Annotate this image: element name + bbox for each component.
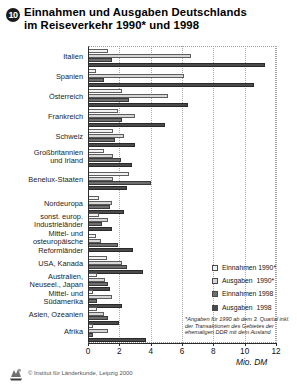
- bar: [88, 181, 151, 185]
- bar: [88, 295, 112, 299]
- category-label: sonst. europ.Industrieländer: [0, 213, 83, 230]
- bar: [88, 78, 104, 82]
- bar: [88, 273, 97, 277]
- x-axis-tick-label: 4: [141, 347, 161, 356]
- bar: [88, 201, 112, 205]
- bar: [88, 83, 254, 87]
- bar: [88, 186, 127, 190]
- chart-footnote: *Angaben für 1990 ab dem 3. Quartal inkl…: [185, 316, 295, 336]
- bar: [88, 333, 93, 337]
- bar: [88, 74, 184, 78]
- legend-swatch: [212, 278, 218, 284]
- category-label: Asien, Ozeanien: [0, 311, 83, 319]
- category-label: Österreich: [0, 93, 83, 101]
- category-label-line: Südamerika: [0, 298, 83, 306]
- bar: [88, 177, 113, 181]
- x-axis-tick-label: 12: [266, 347, 286, 356]
- bar: [88, 278, 105, 282]
- gridline: [213, 46, 214, 343]
- bar: [88, 123, 165, 127]
- x-axis-tick: [213, 343, 214, 346]
- bar: [88, 118, 122, 122]
- category-label-line: Spanien: [0, 73, 83, 81]
- bar: [88, 109, 118, 113]
- category-label: Mittel- undSüdamerika: [0, 290, 83, 307]
- bar: [88, 143, 135, 147]
- bar: [88, 227, 112, 231]
- category-label: Schweiz: [0, 133, 83, 141]
- bar: [88, 205, 110, 209]
- bar: [88, 256, 107, 260]
- category-label-line: Afrika: [0, 328, 83, 336]
- x-axis-tick: [88, 343, 89, 346]
- x-axis-tick: [276, 343, 277, 346]
- bar: [88, 58, 112, 62]
- bar: [88, 94, 168, 98]
- page-title: Einnahmen und Ausgaben Deutschlands im R…: [24, 6, 289, 32]
- category-label-line: und Irland: [0, 157, 83, 165]
- credit-text: © Institut für Länderkunde, Leipzig 2000: [28, 370, 133, 376]
- x-axis-tick-label: 8: [203, 347, 223, 356]
- bar: [88, 321, 119, 325]
- bar: [88, 307, 97, 311]
- legend-swatch: [212, 305, 218, 311]
- category-label-line: Österreich: [0, 93, 83, 101]
- legend-swatch: [212, 291, 218, 297]
- bar: [88, 316, 108, 320]
- chart-header: 10 Einnahmen und Ausgaben Deutschlands i…: [0, 6, 297, 40]
- x-axis-tick-label: 0: [78, 347, 98, 356]
- category-label-line: Benelux-Staaten: [0, 176, 83, 184]
- institut-fuer-laenderkunde-logo: [8, 366, 24, 382]
- bar: [88, 290, 93, 294]
- bar: [88, 129, 113, 133]
- category-label-line: Frankreich: [0, 113, 83, 121]
- credit-line: © Institut für Länderkunde, Leipzig 2000: [8, 366, 238, 386]
- bar: [88, 89, 122, 93]
- category-label: Australien,Neuseel., Japan: [0, 273, 83, 290]
- category-label-line: Nordeuropa: [0, 200, 83, 208]
- category-label: Frankreich: [0, 113, 83, 121]
- bar: [88, 138, 115, 142]
- bar: [88, 239, 101, 243]
- x-axis-tick: [245, 343, 246, 346]
- title-line-1: Einnahmen und Ausgaben Deutschlands: [24, 6, 289, 19]
- bar: [88, 172, 129, 176]
- category-label: Afrika: [0, 328, 83, 336]
- bar: [88, 154, 113, 158]
- category-label: Großbritannienund Irland: [0, 149, 83, 166]
- bar: [88, 63, 265, 67]
- bar: [88, 54, 191, 58]
- gridline: [151, 46, 152, 343]
- legend-swatch: [212, 265, 218, 271]
- legend-label: Ausgaben 1998: [222, 303, 272, 313]
- bar: [88, 299, 97, 303]
- bar: [88, 312, 104, 316]
- x-axis-tick: [119, 343, 120, 346]
- legend-label: Einnahmen 1998: [222, 289, 273, 299]
- x-axis-unit-label: Mio. DM: [236, 357, 267, 367]
- category-label: Benelux-Staaten: [0, 176, 83, 184]
- bar: [88, 158, 121, 162]
- category-label: Nordeuropa: [0, 200, 83, 208]
- bar: [88, 265, 127, 269]
- bar: [88, 134, 124, 138]
- bar: [88, 324, 93, 328]
- category-label-line: Schweiz: [0, 133, 83, 141]
- bar: [88, 103, 188, 107]
- category-label-line: USA, Kanada: [0, 260, 83, 268]
- bar: [88, 213, 99, 217]
- category-label: Spanien: [0, 73, 83, 81]
- bar: [88, 248, 133, 252]
- x-axis-tick: [182, 343, 183, 346]
- bar: [88, 338, 146, 342]
- gridline: [276, 46, 277, 343]
- bar: [88, 243, 118, 247]
- bar: [88, 49, 108, 53]
- bar: [88, 218, 108, 222]
- bar: [88, 114, 135, 118]
- x-axis-tick-label: 10: [235, 347, 255, 356]
- figure-number-badge: 10: [6, 8, 20, 22]
- category-label: USA, Kanada: [0, 260, 83, 268]
- bar: [88, 261, 122, 265]
- bar: [88, 69, 96, 73]
